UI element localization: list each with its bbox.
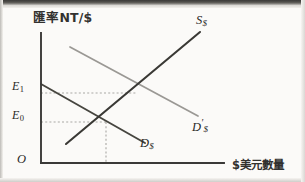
supply-curve [66,32,200,144]
demand-shifted-label-main: D [192,120,201,134]
demand-shifted-curve [70,47,198,116]
demand-original-curve-label: D$ [140,137,154,151]
supply-label-subscript: $ [202,18,207,28]
supply-curve-label: S$ [196,14,207,28]
y-axis-label: 匯率NT/$ [33,12,92,25]
origin-label: O [17,153,26,166]
demand-shifted-curve-label: D′$ [192,118,208,134]
x-axis-label: $美元數量 [232,160,284,172]
demand-label-subscript: $ [149,141,154,151]
demand-shifted-label-subscript: $ [203,124,208,134]
y-tick-e0-subscript: 0 [19,113,24,123]
plot-canvas [0,0,305,182]
demand-label-main: D [140,136,149,150]
y-tick-label-e1: E1 [12,80,24,93]
y-tick-e1-subscript: 1 [19,84,24,94]
y-tick-label-e0: E0 [12,109,24,122]
figure-root: 匯率NT/$ $美元數量 O E1 E0 S$ D$ D′$ [0,0,305,182]
